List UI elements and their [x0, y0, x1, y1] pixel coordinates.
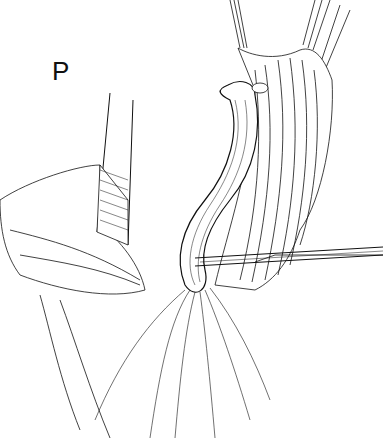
clip-marker	[252, 83, 268, 93]
retractor	[97, 93, 133, 245]
illustration-canvas: P	[0, 0, 383, 438]
surgical-drawing	[0, 0, 383, 438]
lower-fibers	[95, 288, 270, 438]
